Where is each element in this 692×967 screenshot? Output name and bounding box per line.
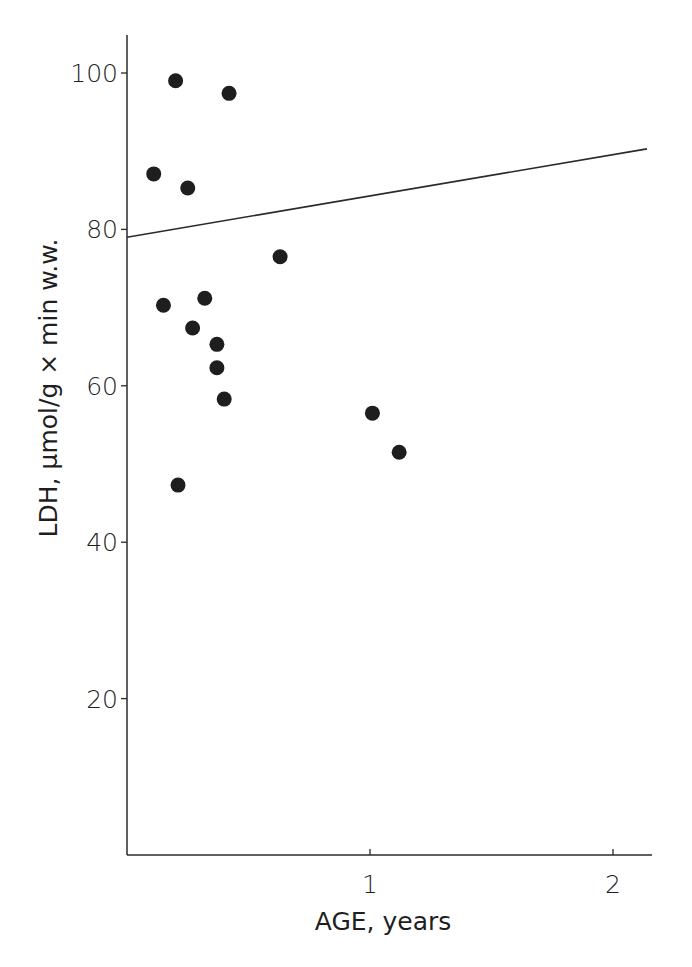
data-point (197, 291, 212, 306)
x-tick-label: 1 (362, 870, 378, 899)
x-tick-label: 2 (605, 870, 621, 899)
y-tick-label: 60 (86, 372, 118, 401)
y-tick-label: 20 (86, 685, 118, 714)
data-point (217, 392, 232, 407)
data-point (185, 320, 200, 335)
y-tick-label: 80 (86, 215, 118, 244)
data-point (146, 166, 161, 181)
data-point (392, 445, 407, 460)
x-axis-ticks: 12 (362, 849, 621, 899)
data-point (222, 86, 237, 101)
data-point (209, 360, 224, 375)
x-axis-title: AGE, years (315, 907, 452, 936)
y-axis-title: LDH, μmol/g × min w.w. (34, 239, 63, 538)
data-point (273, 249, 288, 264)
plot-area (127, 73, 647, 492)
data-point (209, 337, 224, 352)
data-point (180, 180, 195, 195)
y-axis-ticks: 20406080100 (70, 59, 127, 714)
y-tick-label: 100 (70, 59, 118, 88)
data-point (156, 298, 171, 313)
y-tick-label: 40 (86, 528, 118, 557)
regression-line (127, 149, 647, 237)
data-point (171, 478, 186, 493)
data-point (365, 406, 380, 421)
scatter-chart: 20406080100 12 AGE, years LDH, μmol/g × … (0, 0, 692, 967)
data-point (168, 73, 183, 88)
